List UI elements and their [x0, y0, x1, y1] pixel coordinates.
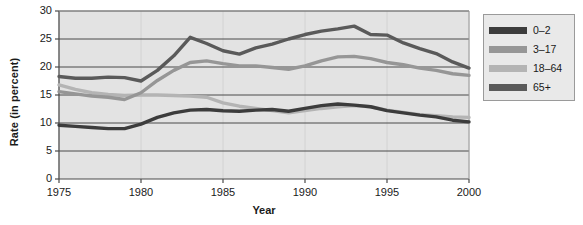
legend-item-3-17: 3–17 [489, 40, 569, 59]
legend-swatch-0-2 [489, 27, 527, 34]
legend-item-65plus: 65+ [489, 78, 569, 97]
chart-figure: Rate (in percent) Year 30 25 20 15 10 5 … [0, 0, 583, 225]
legend-item-0-2: 0–2 [489, 21, 569, 40]
legend-swatch-3-17 [489, 46, 527, 53]
legend-swatch-65plus [489, 84, 527, 91]
legend-swatch-18-64 [489, 65, 527, 72]
legend-label-3-17: 3–17 [533, 44, 556, 55]
legend-label-0-2: 0–2 [533, 25, 551, 36]
legend-item-18-64: 18–64 [489, 59, 569, 78]
chart-plot-container: Rate (in percent) Year 30 25 20 15 10 5 … [0, 0, 470, 225]
chart-legend: 0–2 3–17 18–64 65+ [483, 14, 575, 101]
legend-label-18-64: 18–64 [533, 63, 562, 74]
legend-label-65plus: 65+ [533, 82, 551, 93]
